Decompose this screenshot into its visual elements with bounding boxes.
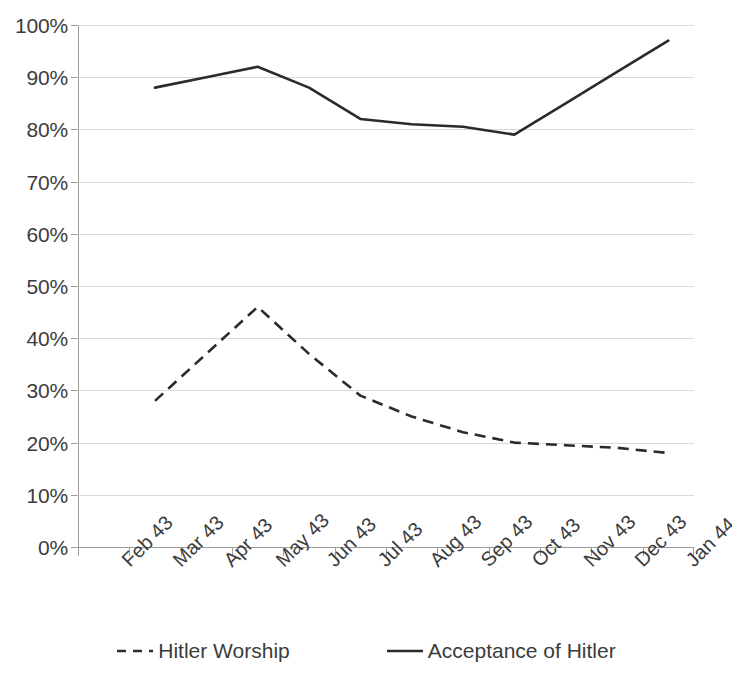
y-tick-label: 50% — [27, 276, 68, 297]
x-tick-label: Mar 43 — [169, 556, 183, 570]
plot-area — [78, 25, 694, 547]
y-tick-label: 100% — [15, 15, 68, 36]
series-line-hitler-worship — [155, 307, 668, 453]
legend-item-hitler-worship[interactable]: Hitler Worship — [116, 640, 289, 661]
y-tick-label: 80% — [27, 119, 68, 140]
legend-label: Hitler Worship — [158, 640, 289, 661]
legend-swatch-solid — [386, 644, 424, 658]
y-tick-label: 10% — [27, 484, 68, 505]
legend-label: Acceptance of Hitler — [428, 640, 616, 661]
x-tick-label: Aug 43 — [426, 556, 440, 570]
legend-item-acceptance-of-hitler[interactable]: Acceptance of Hitler — [386, 640, 616, 661]
y-tick-mark — [71, 390, 78, 391]
y-tick-label: 90% — [27, 67, 68, 88]
x-tick-label: May 43 — [272, 556, 286, 570]
x-tick-label: Apr 43 — [220, 556, 234, 570]
y-tick-mark — [71, 234, 78, 235]
y-tick-label: 40% — [27, 328, 68, 349]
y-tick-mark — [71, 25, 78, 26]
x-tick-label: Jun 43 — [323, 556, 337, 570]
y-tick-label: 70% — [27, 171, 68, 192]
y-tick-label: 30% — [27, 380, 68, 401]
x-axis-labels: Feb 43Mar 43Apr 43May 43Jun 43Jul 43Aug … — [0, 556, 732, 636]
x-tick-label: Jan 44 — [682, 556, 696, 570]
x-tick-label: Nov 43 — [580, 556, 594, 570]
line-chart: 0%10%20%30%40%50%60%70%80%90%100% Feb 43… — [0, 0, 732, 679]
y-tick-mark — [71, 443, 78, 444]
y-tick-mark — [71, 547, 78, 548]
series-container — [78, 25, 694, 547]
chart-legend: Hitler WorshipAcceptance of Hitler — [0, 640, 732, 661]
x-tick-label: Feb 43 — [118, 556, 132, 570]
y-axis-labels: 0%10%20%30%40%50%60%70%80%90%100% — [0, 25, 68, 547]
y-tick-mark — [71, 338, 78, 339]
x-tick-label: Dec 43 — [631, 556, 645, 570]
y-tick-label: 60% — [27, 223, 68, 244]
y-tick-mark — [71, 77, 78, 78]
y-tick-label: 0% — [38, 537, 68, 558]
y-tick-mark — [71, 182, 78, 183]
x-tick-mark — [78, 548, 79, 556]
series-line-acceptance-of-hitler — [155, 41, 668, 135]
y-tick-mark — [71, 495, 78, 496]
x-tick-label: Jul 43 — [374, 556, 388, 570]
x-tick-label: Sep 43 — [477, 556, 491, 570]
y-tick-label: 20% — [27, 432, 68, 453]
x-tick-label: Oct 43 — [528, 556, 542, 570]
y-tick-mark — [71, 129, 78, 130]
y-tick-mark — [71, 286, 78, 287]
legend-swatch-dashed — [116, 644, 154, 658]
